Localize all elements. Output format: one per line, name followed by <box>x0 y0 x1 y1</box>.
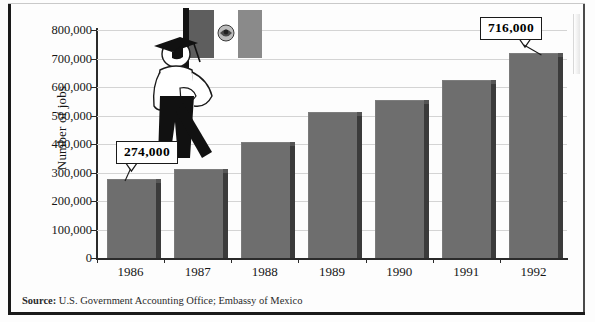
bar-top-bevel <box>223 169 228 173</box>
source-text: U.S. Government Accounting Office; Embas… <box>59 295 303 306</box>
bar-1992 <box>509 53 558 258</box>
bar-side-shadow <box>491 84 496 258</box>
x-axis-tick <box>164 258 165 263</box>
source-line: Source: U.S. Government Accounting Offic… <box>22 295 302 306</box>
x-axis-tick-label-1988: 1988 <box>232 264 298 280</box>
x-axis-tick <box>298 258 299 263</box>
bar-side-shadow <box>290 146 295 258</box>
x-axis-tick-label-1992: 1992 <box>500 264 566 280</box>
y-axis-tick <box>91 116 97 117</box>
page-frame-right <box>583 4 585 314</box>
y-axis-tick <box>91 87 97 88</box>
page-frame-bottom <box>8 312 585 315</box>
x-axis-tick <box>500 258 501 263</box>
y-axis-tick <box>91 30 97 31</box>
x-axis-tick-label-1991: 1991 <box>433 264 499 280</box>
bar-side-shadow <box>357 116 362 258</box>
bar-top-bevel <box>290 142 295 146</box>
y-axis-tick <box>91 201 97 202</box>
bar-1990 <box>375 100 424 258</box>
callout-label-1992: 716,000 <box>480 17 542 40</box>
y-axis-tick <box>91 59 97 60</box>
y-axis-tick-label: 600,000 <box>6 81 92 93</box>
bar-side-shadow <box>156 183 161 258</box>
y-axis-tick-label: 300,000 <box>6 167 92 179</box>
scan-edge-artifact <box>573 14 580 74</box>
bar-top-bevel <box>558 53 563 57</box>
x-axis-line <box>96 258 568 260</box>
bar-side-shadow <box>223 173 228 258</box>
bar-1986 <box>107 179 156 258</box>
x-axis-tick-label-1987: 1987 <box>165 264 231 280</box>
y-axis-tick <box>91 144 97 145</box>
bar-1991 <box>442 80 491 258</box>
x-axis-tick-label-1986: 1986 <box>98 264 164 280</box>
y-axis-tick-label: 100,000 <box>6 224 92 236</box>
y-axis-tick-label: 800,000 <box>6 24 92 36</box>
x-axis-tick <box>433 258 434 263</box>
page-frame-top <box>8 3 585 4</box>
scanned-chart-page: Number of jobs 800,000700,000600,000500,… <box>0 0 595 322</box>
bar-top-bevel <box>491 80 496 84</box>
callout-label-1986: 274,000 <box>116 141 178 164</box>
y-axis-tick-labels: 800,000700,000600,000500,000400,000300,0… <box>0 0 92 322</box>
x-axis-tick-label-1990: 1990 <box>366 264 432 280</box>
bar-side-shadow <box>558 57 563 258</box>
bar-side-shadow <box>424 104 429 258</box>
y-axis-tick <box>91 173 97 174</box>
y-axis-tick-label: 500,000 <box>6 110 92 122</box>
source-label: Source: <box>22 295 56 306</box>
y-axis-tick-label: 700,000 <box>6 53 92 65</box>
bar-1989 <box>308 112 357 258</box>
x-axis-tick <box>97 258 98 263</box>
y-axis-tick-label: 0 <box>6 252 92 264</box>
bar-top-bevel <box>156 179 161 183</box>
bar-1987 <box>174 169 223 258</box>
x-axis-tick <box>231 258 232 263</box>
bar-top-bevel <box>357 112 362 116</box>
x-axis-tick <box>366 258 367 263</box>
x-axis-tick-label-1989: 1989 <box>299 264 365 280</box>
y-axis-tick-label: 200,000 <box>6 195 92 207</box>
y-axis-tick <box>91 230 97 231</box>
y-axis-tick-label: 400,000 <box>6 138 92 150</box>
bar-top-bevel <box>424 100 429 104</box>
